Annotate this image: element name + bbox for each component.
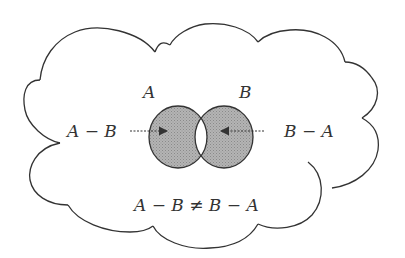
- label-a-minus-b: A − B: [65, 121, 117, 141]
- venn-diagram: A B A − B B − A A − B ≠ B − A: [0, 0, 405, 258]
- label-set-a: A: [141, 82, 155, 102]
- label-b-minus-a: B − A: [283, 121, 334, 141]
- label-inequality: A − B ≠ B − A: [132, 195, 259, 215]
- label-set-b: B: [238, 82, 252, 102]
